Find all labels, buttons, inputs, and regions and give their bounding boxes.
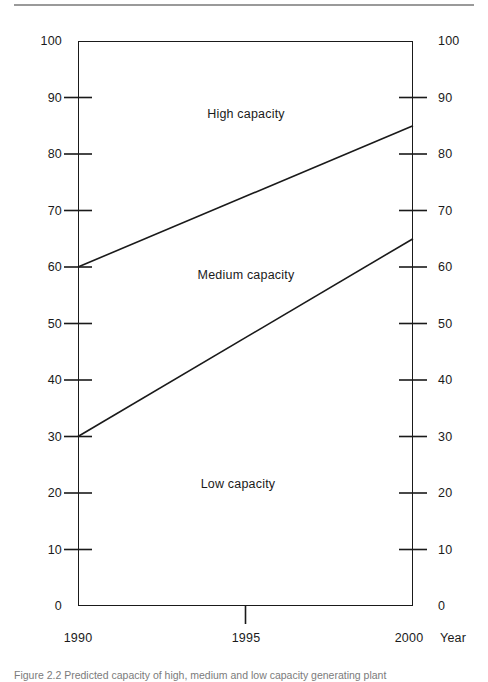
plot-frame xyxy=(78,41,413,606)
y-left-label-90: 90 xyxy=(18,92,62,105)
band-label-low: Low capacity xyxy=(138,478,338,491)
y-left-label-70: 70 xyxy=(18,205,62,218)
figure-caption: Figure 2.2 Predicted capacity of high, m… xyxy=(14,669,474,682)
band-label-high: High capacity xyxy=(146,108,346,121)
band-label-medium: Medium capacity xyxy=(146,269,346,282)
y-left-label-50: 50 xyxy=(18,318,62,331)
x-label-1995: 1995 xyxy=(211,632,281,645)
header-rule xyxy=(14,4,474,6)
y-right-label-20: 20 xyxy=(438,487,482,500)
y-right-label-70: 70 xyxy=(438,205,482,218)
y-left-label-40: 40 xyxy=(18,374,62,387)
y-left-label-0: 0 xyxy=(18,600,62,613)
y-right-label-10: 10 xyxy=(438,544,482,557)
figure: 100 90 80 70 60 50 40 30 20 10 0 100 90 … xyxy=(0,0,488,682)
y-left-label-100: 100 xyxy=(18,35,62,48)
y-right-label-60: 60 xyxy=(438,261,482,274)
y-left-label-10: 10 xyxy=(18,544,62,557)
y-left-label-60: 60 xyxy=(18,261,62,274)
y-right-label-100: 100 xyxy=(438,35,482,48)
y-right-label-50: 50 xyxy=(438,318,482,331)
y-left-label-30: 30 xyxy=(18,431,62,444)
y-left-label-20: 20 xyxy=(18,487,62,500)
y-right-label-30: 30 xyxy=(438,431,482,444)
y-right-label-90: 90 xyxy=(438,92,482,105)
x-label-1990: 1990 xyxy=(43,632,113,645)
y-right-label-0: 0 xyxy=(438,600,482,613)
y-left-label-80: 80 xyxy=(18,148,62,161)
x-label-2000: 2000 xyxy=(374,632,444,645)
y-right-label-80: 80 xyxy=(438,148,482,161)
x-axis-title: Year xyxy=(440,632,466,645)
y-right-label-40: 40 xyxy=(438,374,482,387)
